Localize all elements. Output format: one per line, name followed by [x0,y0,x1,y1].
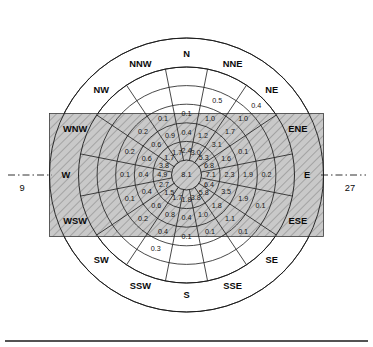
direction-label-S: S [183,290,189,300]
sector-value-SW-ring3: 0.2 [138,214,148,223]
direction-label-NW: NW [94,85,110,95]
direction-label-E: E [304,170,310,180]
sector-value-WSW-ring3: 0.1 [125,194,135,203]
sector-value-E-ring4: 0.2 [262,170,272,179]
sector-value-W-ring2: 0.4 [139,170,149,179]
sector-value-NE-ring5: 0.4 [251,101,261,110]
sector-value-NE-ring2: 3.1 [212,140,222,149]
direction-label-SSE: SSE [223,281,242,291]
sector-value-SW-ring2: 0.6 [151,201,161,210]
sector-value-S-ring1: 1.8 [182,195,192,204]
sector-value-NNE-ring4: 0.5 [212,96,222,105]
sector-value-W-ring3: 0.1 [120,170,130,179]
direction-label-SW: SW [94,255,109,265]
direction-label-NNW: NNW [129,59,151,69]
sector-value-NE-ring3: 1.7 [225,127,235,136]
sector-value-S-ring2: 0.4 [182,213,192,222]
sector-value-SSE-ring1: 3.8 [191,193,201,202]
sector-value-WSW-ring2: 0.4 [142,187,152,196]
sector-value-WNW-ring2: 0.6 [142,154,152,163]
sector-value-SE-ring4: 0.1 [238,227,248,236]
direction-label-WSW: WSW [63,216,87,226]
sector-value-NW-ring3: 0.2 [138,127,148,136]
sector-value-NNW-ring1: 1.7 [172,148,182,157]
axis-label-right: 27 [345,183,355,193]
direction-label-NNE: NNE [223,59,243,69]
sector-value-ESE-ring3: 1.9 [238,194,248,203]
sector-value-NNE-ring2: 1.2 [198,131,208,140]
sector-value-SSE-ring3: 0.1 [205,227,215,236]
sector-value-SSW-ring4: 0.3 [151,244,161,253]
direction-label-N: N [183,49,190,59]
sector-value-NW-ring2: 0.6 [151,140,161,149]
sector-value-NNE-ring3: 1.0 [205,114,215,123]
sector-value-NE-ring4: 1.0 [238,114,248,123]
sector-value-E-ring2: 2.3 [224,170,234,179]
sector-value-NNW-ring2: 0.9 [165,131,175,140]
sector-value-WSW-ring1: 2.7 [159,180,169,189]
direction-label-SSW: SSW [130,281,151,291]
calm-center-value: 8.1 [181,170,191,179]
sector-value-WNW-ring1: 3.8 [159,161,169,170]
sector-value-SSW-ring3: 0.4 [158,227,168,236]
direction-label-SE: SE [266,255,278,265]
sector-value-SE-ring3: 1.1 [225,214,235,223]
sector-value-SE-ring2: 1.8 [212,201,222,210]
sector-value-SW-ring1: 1.5 [164,188,174,197]
axis-label-left: 9 [19,183,24,193]
direction-label-NE: NE [265,85,278,95]
sector-value-N-ring2: 0.4 [182,128,192,137]
sector-value-ENE-ring1: 6.8 [204,161,214,170]
sector-value-SSW-ring2: 0.8 [165,210,175,219]
sector-value-WNW-ring3: 0.2 [125,147,135,156]
sector-value-ESE-ring2: 3.5 [221,187,231,196]
wind-rose-diagram: 8.1 2.40.40.13.01.21.00.55.33.11.71.00.4… [0,0,373,347]
sector-value-ENE-ring2: 1.6 [221,154,231,163]
sector-value-NNW-ring3: 0.1 [158,114,168,123]
sector-value-E-ring3: 1.9 [243,170,253,179]
sector-value-E-ring1: 7.1 [206,170,216,179]
direction-label-ENE: ENE [288,124,307,134]
sector-value-ENE-ring3: 0.1 [238,147,248,156]
direction-label-ESE: ESE [289,216,308,226]
sector-value-S-ring3: 0.1 [182,232,192,241]
direction-label-WNW: WNW [63,124,87,134]
sector-value-SSE-ring2: 1.0 [198,210,208,219]
sector-value-N-ring3: 0.1 [182,109,192,118]
direction-label-W: W [62,170,71,180]
wind-rose-figure: 8.1 2.40.40.13.01.21.00.55.33.11.71.00.4… [0,0,373,347]
sector-value-W-ring1: 4.9 [157,170,167,179]
sector-value-ESE-ring4: 0.1 [256,201,266,210]
